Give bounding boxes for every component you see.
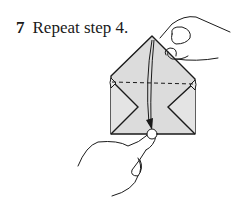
bottom-hand-icon — [78, 129, 157, 196]
origami-diagram — [0, 0, 243, 202]
